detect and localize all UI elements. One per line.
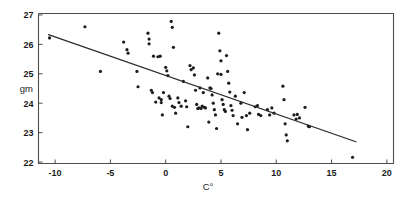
scatter-point [214, 113, 217, 116]
scatter-point [161, 113, 164, 116]
scatter-point [236, 122, 239, 125]
scatter-point [177, 101, 180, 104]
scatter-point [243, 91, 246, 94]
scatter-point [268, 113, 271, 116]
scatter-point [185, 105, 188, 108]
scatter-point [248, 112, 251, 115]
x-tick-label: -5 [106, 168, 114, 178]
scatter-point [219, 59, 222, 62]
scatter-point [220, 98, 223, 101]
y-tick-label: 26 [23, 40, 33, 50]
scatter-point [171, 26, 174, 29]
scatter-point [146, 32, 149, 35]
scatter-point [219, 73, 222, 76]
scatter-point [180, 105, 183, 108]
scatter-point [202, 91, 205, 94]
x-axis-tick-labels: -10-505101520 [49, 168, 392, 178]
scatter-point [229, 104, 232, 107]
y-tick-label: 24 [23, 99, 33, 109]
scatter-point [232, 114, 235, 117]
scatter-point [213, 108, 216, 111]
scatter-point [303, 106, 306, 109]
scatter-point [206, 76, 209, 79]
scatter-point [298, 116, 301, 119]
scatter-point [225, 54, 228, 57]
x-tick-label: 0 [163, 168, 168, 178]
x-axis-title: C° [203, 181, 214, 192]
scatter-point [226, 70, 229, 73]
scatter-point [292, 113, 295, 116]
scatter-point [172, 46, 175, 49]
x-axis-ticks [55, 160, 387, 164]
scatter-point [188, 64, 191, 67]
y-axis-ticks [39, 15, 43, 162]
scatter-point [351, 156, 354, 159]
scatter-point [83, 25, 86, 28]
scatter-point [286, 139, 289, 142]
scatter-point [154, 100, 157, 103]
scatter-point [147, 37, 150, 40]
scatter-point [170, 20, 173, 23]
scatter-point [136, 85, 139, 88]
scatter-point [176, 96, 179, 99]
scatter-point [285, 133, 288, 136]
y-axis-title: gm [20, 83, 33, 94]
scatter-point [174, 112, 177, 115]
scatter-point [125, 48, 128, 51]
scatter-point [122, 40, 125, 43]
scatter-point [135, 70, 138, 73]
scatter-point [99, 70, 102, 73]
scatter-point [270, 106, 273, 109]
scatter-point [209, 87, 212, 90]
scatter-point [162, 91, 165, 94]
scatter-point [217, 32, 220, 35]
scatter-point [218, 49, 221, 52]
scatter-point [215, 127, 218, 130]
y-tick-label: 23 [23, 128, 33, 138]
scatter-point [164, 66, 167, 69]
scatter-plot-figure: -10-505101520 222324252627 C° gm [0, 0, 409, 199]
scatter-point [169, 97, 172, 100]
scatter-point [184, 99, 187, 102]
scatter-point [282, 98, 285, 101]
scatter-points-layer [48, 20, 354, 159]
plot-frame [39, 14, 394, 164]
scatter-point [212, 102, 215, 105]
scatter-point [48, 36, 51, 39]
y-tick-label: 25 [23, 69, 33, 79]
scatter-point [195, 103, 198, 106]
x-tick-label: 20 [382, 168, 392, 178]
scatter-point [194, 89, 197, 92]
scatter-point [207, 120, 210, 123]
scatter-point [228, 90, 231, 93]
scatter-point [165, 69, 168, 72]
regression-trendline [48, 35, 355, 142]
plot-canvas: -10-505101520 222324252627 C° gm [0, 0, 409, 199]
scatter-point [259, 114, 262, 117]
scatter-point [224, 110, 227, 113]
x-tick-label: 5 [218, 168, 223, 178]
x-tick-label: -10 [49, 168, 62, 178]
scatter-point [147, 42, 150, 45]
scatter-point [160, 98, 163, 101]
scatter-point [152, 55, 155, 58]
scatter-point [216, 72, 219, 75]
scatter-point [173, 106, 176, 109]
x-tick-label: 10 [271, 168, 281, 178]
scatter-point [126, 52, 129, 55]
scatter-point [211, 93, 214, 96]
scatter-point [281, 85, 284, 88]
scatter-point [193, 73, 196, 76]
scatter-point [296, 113, 299, 116]
scatter-point [160, 101, 163, 104]
scatter-point [192, 66, 195, 69]
scatter-point [234, 95, 237, 98]
scatter-point [151, 91, 154, 94]
scatter-point [284, 122, 287, 125]
scatter-point [246, 128, 249, 131]
scatter-point [240, 116, 243, 119]
scatter-point [159, 55, 162, 58]
scatter-point [245, 114, 248, 117]
scatter-point [222, 103, 225, 106]
y-tick-label: 27 [23, 10, 33, 20]
